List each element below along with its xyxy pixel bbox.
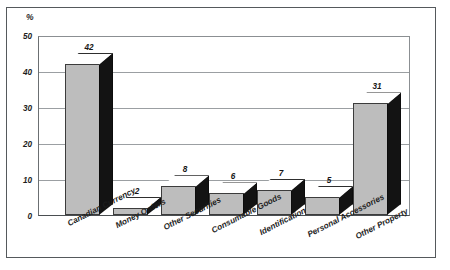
bar-chart: % 50 40 30 20 10 0 422867531 Canadian Cu… xyxy=(0,0,450,270)
y-tick-30: 30 xyxy=(4,104,32,113)
y-tick-40: 40 xyxy=(4,68,32,77)
y-tick-50: 50 xyxy=(4,32,32,41)
y-tick-0: 0 xyxy=(4,212,32,221)
bar-front-face-5 xyxy=(305,197,339,215)
bar-side-face-0 xyxy=(99,53,113,215)
bar-value-label-5: 5 xyxy=(309,176,349,185)
bar-value-label-6: 31 xyxy=(357,82,397,91)
y-tick-10: 10 xyxy=(4,176,32,185)
bar-side-face-6 xyxy=(387,92,401,215)
bar-value-label-2: 8 xyxy=(165,165,205,174)
bar-value-label-0: 42 xyxy=(69,43,109,52)
chart-screenshot: % 50 40 30 20 10 0 422867531 Canadian Cu… xyxy=(0,0,450,270)
bar-front-face-0 xyxy=(65,64,99,215)
bar-0: 42 xyxy=(65,53,113,215)
plot-area: 422867531 xyxy=(38,36,410,216)
y-axis-unit-label: % xyxy=(26,12,34,22)
bar-value-label-4: 7 xyxy=(261,169,301,178)
y-tick-20: 20 xyxy=(4,140,32,149)
bar-value-label-3: 6 xyxy=(213,172,253,181)
